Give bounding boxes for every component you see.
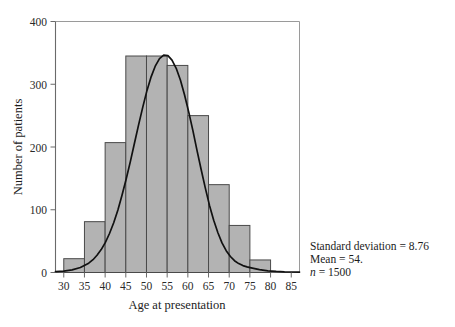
mean-text: Mean = 54. <box>310 253 429 266</box>
x-tick-label: 65 <box>203 280 215 292</box>
y-tick-label: 200 <box>30 142 48 154</box>
bar-60-65 <box>188 116 209 273</box>
x-axis-title: Age at presentation <box>128 298 226 312</box>
x-tick-label: 35 <box>79 280 91 292</box>
bar-70-75 <box>229 225 250 272</box>
x-tick-label: 85 <box>286 280 298 292</box>
x-tick-label: 45 <box>120 280 132 292</box>
x-tick-label: 50 <box>141 280 153 292</box>
x-tick-label: 30 <box>58 280 70 292</box>
y-tick-marks <box>51 22 56 273</box>
histogram-bars <box>64 56 271 272</box>
histogram-figure: 400 300 200 100 0 Number of patients <box>0 0 455 327</box>
x-tick-marks <box>64 273 291 278</box>
y-tick-label: 300 <box>30 79 48 91</box>
x-tick-label: 75 <box>244 280 256 292</box>
x-tick-labels: 30 35 40 45 50 55 60 65 70 75 80 85 <box>58 280 297 292</box>
x-tick-label: 70 <box>223 280 235 292</box>
statistics-annotation: Standard deviation = 8.76 Mean = 54. n =… <box>310 240 429 280</box>
y-tick-label: 100 <box>30 204 48 216</box>
y-axis-title: Number of patients <box>11 99 25 196</box>
bar-50-55 <box>146 56 167 272</box>
x-tick-label: 55 <box>161 280 173 292</box>
y-tick-labels: 400 300 200 100 0 <box>30 16 48 279</box>
sample-size-text: n = 1500 <box>310 266 429 279</box>
bar-65-70 <box>209 185 230 273</box>
x-tick-label: 80 <box>265 280 277 292</box>
bar-40-45 <box>105 143 126 273</box>
y-tick-label: 400 <box>30 16 48 28</box>
standard-deviation-text: Standard deviation = 8.76 <box>310 240 429 253</box>
sample-size-value: = 1500 <box>316 266 351 278</box>
x-tick-label: 60 <box>182 280 194 292</box>
y-tick-label: 0 <box>41 267 47 279</box>
x-tick-label: 40 <box>99 280 111 292</box>
